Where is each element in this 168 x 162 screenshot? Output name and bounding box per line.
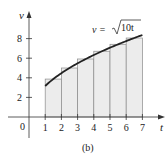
y-tick-label: 4 bbox=[17, 72, 22, 83]
x-tick-label: 5 bbox=[108, 122, 113, 133]
y-tick-label: 6 bbox=[17, 53, 22, 64]
riemann-rectangle bbox=[78, 59, 94, 117]
x-tick-label: 1 bbox=[43, 122, 48, 133]
chart: 1234567 2468 v t 0 v = 10t (b) bbox=[0, 0, 168, 162]
y-ticks: 2468 bbox=[17, 33, 32, 103]
riemann-rectangle bbox=[61, 68, 77, 117]
riemann-rectangle bbox=[126, 38, 142, 117]
y-tick-label: 8 bbox=[17, 33, 22, 44]
origin-label: 0 bbox=[20, 121, 25, 132]
riemann-rectangle bbox=[94, 51, 110, 117]
x-tick-label: 3 bbox=[75, 122, 80, 133]
x-tick-label: 4 bbox=[91, 122, 96, 133]
y-axis-label: v bbox=[19, 9, 24, 21]
y-tick-label: 2 bbox=[17, 92, 22, 103]
y-axis-arrow-icon bbox=[27, 11, 32, 18]
x-tick-label: 2 bbox=[59, 122, 64, 133]
x-axis-label: t bbox=[160, 121, 164, 133]
x-tick-label: 7 bbox=[140, 122, 145, 133]
figure-caption: (b) bbox=[82, 142, 94, 154]
riemann-rectangle bbox=[110, 44, 126, 117]
curve-label-radicand: 10t bbox=[121, 22, 134, 33]
x-tick-label: 6 bbox=[124, 122, 129, 133]
riemann-rectangles bbox=[45, 38, 142, 117]
x-axis-arrow-icon bbox=[158, 115, 165, 120]
curve-label: v = bbox=[92, 24, 106, 35]
curve-label-lhs: v = bbox=[92, 24, 106, 35]
